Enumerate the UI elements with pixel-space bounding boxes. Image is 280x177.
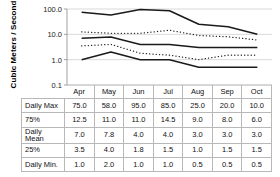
table-cell: 0.5	[242, 157, 272, 171]
table-row-label: 25%	[22, 143, 65, 157]
plot-svg	[67, 9, 272, 85]
table-cell: 7.0	[65, 127, 95, 143]
series-line-daily-mean	[82, 37, 258, 48]
table-cell: 1.5	[212, 143, 242, 157]
table-cell: 1.8	[124, 143, 154, 157]
y-axis-tick-labels: 100.010.01.00.1	[24, 0, 66, 95]
table-cell: 1.0	[183, 143, 213, 157]
y-axis-tick-label: 1.0	[52, 55, 62, 64]
table-row: Daily Min.1.02.01.01.00.50.50.5	[22, 157, 272, 171]
table-column-header: May	[94, 85, 124, 99]
table-row: Daily Mean7.07.84.04.03.03.03.0	[22, 127, 272, 143]
table-cell: 0.5	[212, 157, 242, 171]
table-cell: 3.5	[65, 143, 95, 157]
table-column-header: Jul	[153, 85, 183, 99]
table-cell: 1.0	[65, 157, 95, 171]
table-column-header: Sep	[212, 85, 242, 99]
table-cell: 25.0	[183, 99, 213, 113]
table-cell: 11.0	[94, 113, 124, 127]
table-cell: 14.5	[153, 113, 183, 127]
table-cell: 2.0	[94, 157, 124, 171]
table-cell: 3.0	[183, 127, 213, 143]
plot-area	[67, 9, 272, 85]
table-row-label: Daily Mean	[22, 127, 65, 143]
table-cell: 1.0	[124, 157, 154, 171]
table-cell: 85.0	[153, 99, 183, 113]
table-row-label: Daily Min.	[22, 157, 65, 171]
table-cell: 11.0	[124, 113, 154, 127]
table-cell: 0.5	[183, 157, 213, 171]
table-cell: 1.0	[153, 157, 183, 171]
table-cell: 4.0	[153, 127, 183, 143]
table-header-row: AprMayJunJulAugSepOct	[22, 85, 272, 99]
table-cell: 20.0	[212, 99, 242, 113]
table-row: 25%3.54.01.81.51.01.51.5	[22, 143, 272, 157]
data-table: AprMayJunJulAugSepOctDaily Max75.058.095…	[21, 85, 272, 172]
table-cell: 75.0	[65, 99, 95, 113]
table-cell: 3.0	[242, 127, 272, 143]
table-cell: 95.0	[124, 99, 154, 113]
table-cell: 1.5	[153, 143, 183, 157]
table-row-label: 75%	[22, 113, 65, 127]
table-row: 75%12.511.011.014.59.08.06.0	[22, 113, 272, 127]
table-cell: 58.0	[94, 99, 124, 113]
table-column-header: Oct	[242, 85, 272, 99]
table-column-header: Apr	[65, 85, 95, 99]
table-cell: 7.8	[94, 127, 124, 143]
table-cell: 8.0	[212, 113, 242, 127]
y-axis-tick-label: 100.0	[43, 5, 62, 14]
series-line-daily-max	[82, 10, 258, 35]
table-row: Daily Max75.058.095.085.025.020.010.0	[22, 99, 272, 113]
table-corner-cell	[22, 85, 65, 99]
table-row-label: Daily Max	[22, 99, 65, 113]
table-column-header: Aug	[183, 85, 213, 99]
table-cell: 12.5	[65, 113, 95, 127]
y-axis-tick-label: 10.0	[47, 30, 62, 39]
table-column-header: Jun	[124, 85, 154, 99]
table-cell: 1.5	[242, 143, 272, 157]
table-cell: 10.0	[242, 99, 272, 113]
table-cell: 3.0	[212, 127, 242, 143]
table-cell: 4.0	[94, 143, 124, 157]
table-cell: 4.0	[124, 127, 154, 143]
chart-figure: Cubic Meters / Second 100.010.01.00.1 Ap…	[0, 0, 280, 177]
series-line-75	[82, 30, 258, 40]
table-cell: 6.0	[242, 113, 272, 127]
y-axis-title: Cubic Meters / Second	[9, 0, 18, 91]
table-cell: 9.0	[183, 113, 213, 127]
